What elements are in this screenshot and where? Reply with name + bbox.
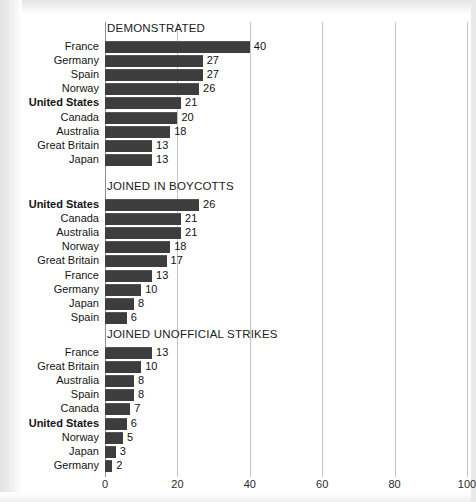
bar (105, 298, 134, 310)
bar (105, 312, 127, 324)
bar-row: Germany10 (0, 283, 471, 297)
bar-row: Japan13 (0, 153, 471, 167)
bar-row: Great Britain13 (0, 139, 471, 153)
bar-row: United States26 (0, 198, 471, 212)
x-axis-tick-label: 40 (244, 478, 256, 490)
bar-value-label: 26 (203, 198, 215, 211)
bar-row: Australia21 (0, 226, 471, 240)
x-axis-tick-label: 100 (458, 478, 476, 490)
bar-row: France13 (0, 269, 471, 283)
bar (105, 241, 170, 253)
bar-value-label: 21 (185, 96, 197, 109)
bar-row: Australia18 (0, 125, 471, 139)
bar-category-label: France (65, 269, 99, 282)
bar (105, 126, 170, 138)
bar-value-label: 20 (181, 111, 193, 124)
bar-category-label: France (65, 40, 99, 53)
bar-value-label: 17 (171, 254, 183, 267)
bar (105, 213, 181, 225)
bar-category-label: United States (29, 96, 99, 109)
bar (105, 432, 123, 444)
bar (105, 361, 141, 373)
bar-value-label: 8 (138, 374, 144, 387)
bar (105, 389, 134, 401)
section-title: JOINED IN BOYCOTTS (107, 180, 234, 192)
bar-row: United States21 (0, 96, 471, 110)
section-title: JOINED UNOFFICIAL STRIKES (107, 328, 278, 340)
bar (105, 270, 152, 282)
bar (105, 255, 167, 267)
bar-category-label: Spain (71, 388, 99, 401)
bar-row: Spain8 (0, 388, 471, 402)
bar-value-label: 3 (120, 445, 126, 458)
bar (105, 112, 177, 124)
bar-row: United States6 (0, 417, 471, 431)
bar (105, 403, 130, 415)
bar (105, 418, 127, 430)
bar-row: Germany2 (0, 459, 471, 473)
bar (105, 347, 152, 359)
bar (105, 69, 203, 81)
x-axis-tick-label: 0 (102, 478, 108, 490)
bar (105, 199, 199, 211)
bar-row: Great Britain10 (0, 360, 471, 374)
bar (105, 460, 112, 472)
bar-row: France13 (0, 346, 471, 360)
bar-category-label: Great Britain (37, 139, 99, 152)
bar-category-label: France (65, 346, 99, 359)
bar-category-label: Norway (62, 240, 99, 253)
bar-row: Spain6 (0, 311, 471, 325)
bar-category-label: Spain (71, 68, 99, 81)
bar (105, 284, 141, 296)
bar-row: Canada20 (0, 111, 471, 125)
bar-value-label: 18 (174, 240, 186, 253)
x-axis-tick-label: 60 (316, 478, 328, 490)
bar-value-label: 18 (174, 125, 186, 138)
bar-row: Norway26 (0, 82, 471, 96)
bar-value-label: 21 (185, 212, 197, 225)
bar-value-label: 26 (203, 82, 215, 95)
bar-category-label: Norway (62, 82, 99, 95)
bar (105, 55, 203, 67)
bar-value-label: 10 (145, 360, 157, 373)
bar-value-label: 8 (138, 388, 144, 401)
bar-category-label: United States (29, 417, 99, 430)
bar-row: Japan8 (0, 297, 471, 311)
bar-value-label: 7 (134, 402, 140, 415)
section-title: DEMONSTRATED (107, 22, 205, 34)
bar-category-label: Canada (60, 212, 99, 225)
bar-category-label: United States (29, 198, 99, 211)
x-axis-tick-label: 80 (388, 478, 400, 490)
bar-row: France40 (0, 40, 471, 54)
bar (105, 227, 181, 239)
bar-category-label: Japan (69, 153, 99, 166)
bar-row: Spain27 (0, 68, 471, 82)
bar-value-label: 8 (138, 297, 144, 310)
bar (105, 83, 199, 95)
bar (105, 41, 250, 53)
bar-category-label: Germany (54, 459, 99, 472)
bar-row: Canada7 (0, 402, 471, 416)
bar-category-label: Australia (56, 374, 99, 387)
bar-category-label: Spain (71, 311, 99, 324)
bar (105, 375, 134, 387)
bar-category-label: Australia (56, 125, 99, 138)
bar-category-label: Norway (62, 431, 99, 444)
bar-value-label: 21 (185, 226, 197, 239)
bar (105, 97, 181, 109)
bar-category-label: Germany (54, 54, 99, 67)
bar-row: Australia8 (0, 374, 471, 388)
bar-row: Japan3 (0, 445, 471, 459)
bar-value-label: 27 (207, 54, 219, 67)
bar-row: Great Britain17 (0, 254, 471, 268)
bar-category-label: Canada (60, 111, 99, 124)
x-axis-tick-label: 20 (171, 478, 183, 490)
bar-row: Germany27 (0, 54, 471, 68)
bar-category-label: Germany (54, 283, 99, 296)
bar-category-label: Japan (69, 297, 99, 310)
bar-value-label: 13 (156, 153, 168, 166)
bar-value-label: 6 (131, 417, 137, 430)
bar-row: Norway18 (0, 240, 471, 254)
bar (105, 446, 116, 458)
